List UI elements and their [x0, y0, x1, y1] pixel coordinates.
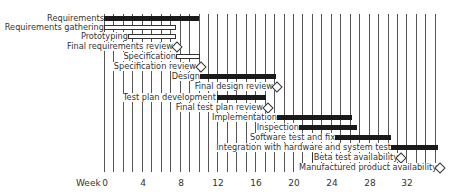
milestone-diamond-icon: [271, 81, 282, 92]
tick-label: 0: [102, 178, 108, 188]
task-row-manufactured-product-availability: Manufactured product availability: [0, 163, 459, 172]
x-axis-label: Week: [76, 178, 101, 188]
task-label: Inspection: [256, 123, 299, 132]
tick-label: 24: [326, 178, 337, 188]
task-row-prototyping: Prototyping: [0, 32, 459, 41]
summary-bar: [217, 95, 266, 100]
tick-label: 32: [401, 178, 412, 188]
task-row-specification: Specification: [0, 52, 459, 61]
task-row-design: Design: [0, 72, 459, 81]
task-row-implementation: Implementation: [0, 113, 459, 122]
task-label: Software test and fix: [249, 133, 335, 142]
task-row-integration: Integration with hardware and system tes…: [0, 143, 459, 152]
summary-bar: [277, 115, 352, 120]
task-bar: [176, 54, 200, 59]
task-bar: [128, 34, 176, 39]
tick-label: 20: [288, 178, 299, 188]
task-row-final-test-plan-review: Final test plan review: [0, 103, 459, 112]
task-row-final-design-review: Final design review: [0, 82, 459, 91]
task-row-final-requirements-review: Final requirements review: [0, 42, 459, 51]
summary-bar: [335, 135, 391, 140]
task-label: Final requirements review: [66, 42, 173, 51]
summary-bar: [299, 125, 357, 130]
task-label: Specification: [122, 52, 176, 61]
summary-bar: [391, 145, 438, 150]
tick-label: 28: [364, 178, 375, 188]
task-row-specification-review: Specification review: [0, 62, 459, 71]
task-label: Design: [171, 72, 200, 81]
task-row-beta-test-availability: Beta test availability: [0, 153, 459, 162]
task-label: Final design review: [194, 82, 273, 91]
task-label: Specification review: [113, 62, 196, 71]
task-label: Beta test availability: [312, 153, 398, 162]
task-row-inspection: Inspection: [0, 123, 459, 132]
gantt-chart: Requirements Requirements gathering Prot…: [0, 0, 459, 192]
summary-bar: [104, 16, 199, 21]
task-row-test-plan-development: Test plan development: [0, 93, 459, 102]
task-label: Manufactured product availability: [298, 163, 437, 172]
task-label: Final test plan review: [175, 103, 263, 112]
task-bar: [104, 25, 176, 30]
tick-label: 8: [178, 178, 184, 188]
task-label: Implementation: [211, 113, 277, 122]
task-label: Prototyping: [80, 32, 128, 41]
task-label: Test plan development: [122, 93, 216, 102]
tick-label: 16: [250, 178, 261, 188]
task-row-software-test-and-fix: Software test and fix: [0, 133, 459, 142]
tick-label: 12: [212, 178, 223, 188]
summary-bar: [200, 74, 276, 79]
task-label: Integration with hardware and system tes…: [215, 143, 391, 152]
task-row-requirements-gathering: Requirements gathering: [0, 23, 459, 32]
tick-label: 4: [140, 178, 146, 188]
